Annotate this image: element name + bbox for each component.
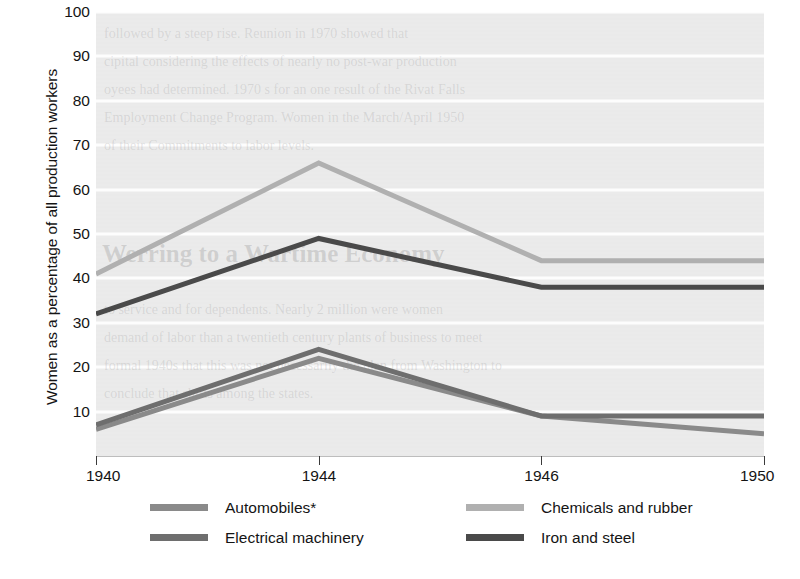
y-tick-label: 80 bbox=[44, 93, 90, 109]
y-tick-label: 40 bbox=[44, 271, 90, 287]
plot-area: followed by a steep rise. Reunion in 197… bbox=[96, 12, 764, 456]
x-tick-label: 1946 bbox=[524, 468, 558, 484]
legend-label: Electrical machinery bbox=[225, 530, 364, 546]
line-chart-figure: Women as a percentage of all production … bbox=[0, 0, 800, 579]
legend-item: Electrical machinery bbox=[150, 530, 364, 546]
legend-swatch bbox=[466, 534, 524, 541]
series-line bbox=[96, 238, 764, 313]
y-tick-label: 50 bbox=[44, 226, 90, 242]
legend-item: Iron and steel bbox=[466, 530, 635, 546]
y-tick-label: 20 bbox=[44, 359, 90, 375]
legend-swatch bbox=[466, 504, 524, 511]
legend-item: Automobiles* bbox=[150, 500, 316, 516]
series-line bbox=[96, 163, 764, 274]
legend-label: Chemicals and rubber bbox=[541, 500, 693, 516]
chart-legend: Automobiles*Chemicals and rubberElectric… bbox=[150, 500, 770, 562]
x-tick-label: 1944 bbox=[302, 468, 336, 484]
x-tick-mark bbox=[541, 456, 542, 465]
x-tick-mark bbox=[96, 456, 97, 465]
x-tick-mark bbox=[764, 456, 765, 465]
legend-label: Iron and steel bbox=[541, 530, 635, 546]
x-tick-label: 1940 bbox=[86, 468, 120, 484]
x-axis-tick-labels: 1940194419461950 bbox=[96, 456, 764, 492]
legend-label: Automobiles* bbox=[225, 500, 316, 516]
y-axis-tick-labels: 102030405060708090100 bbox=[44, 8, 90, 456]
legend-swatch bbox=[150, 504, 208, 511]
y-tick-label: 30 bbox=[44, 315, 90, 331]
x-tick-label: 1950 bbox=[740, 468, 774, 484]
legend-item: Chemicals and rubber bbox=[466, 500, 693, 516]
y-tick-label: 70 bbox=[44, 137, 90, 153]
y-tick-label: 10 bbox=[44, 404, 90, 420]
y-tick-label: 60 bbox=[44, 182, 90, 198]
y-tick-label: 100 bbox=[44, 4, 90, 20]
data-series-lines bbox=[96, 12, 764, 456]
legend-swatch bbox=[150, 534, 208, 541]
series-line bbox=[96, 358, 764, 433]
x-tick-mark bbox=[319, 456, 320, 465]
y-tick-label: 90 bbox=[44, 49, 90, 65]
